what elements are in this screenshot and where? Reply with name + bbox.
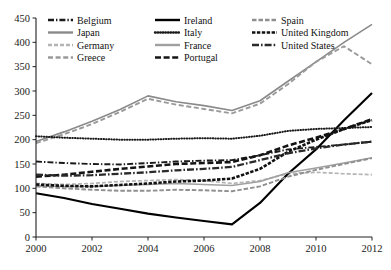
legend-item-ireland: Ireland — [155, 15, 212, 26]
legend-item-united-kingdom: United Kingdom — [252, 27, 349, 38]
x-tick-label: 2000 — [26, 243, 47, 254]
y-tick-label: 0 — [25, 232, 30, 243]
series-line-united-kingdom — [36, 120, 372, 186]
y-tick-label: 150 — [14, 159, 30, 170]
y-tick-label: 250 — [14, 110, 30, 121]
x-tick-label: 2012 — [362, 243, 383, 254]
legend-item-italy: Italy — [155, 27, 202, 38]
legend-item-portugal: Portugal — [155, 52, 218, 63]
x-tick-label: 2002 — [82, 243, 103, 254]
y-tick-label: 400 — [14, 37, 30, 48]
x-tick-label: 2008 — [250, 243, 271, 254]
legend-label: France — [184, 40, 212, 51]
chart-container: 0501001502002503003504004502000200220042… — [0, 0, 391, 270]
legend: BelgiumJapanGermanyGreeceIrelandItalyFra… — [48, 15, 349, 64]
line-chart: 0501001502002503003504004502000200220042… — [0, 0, 391, 270]
legend-item-spain: Spain — [252, 15, 304, 26]
legend-label: Greece — [77, 52, 106, 63]
y-tick-label: 200 — [14, 134, 30, 145]
legend-label: Germany — [77, 40, 114, 51]
legend-label: United States — [281, 40, 335, 51]
y-tick-label: 300 — [14, 86, 30, 97]
series-line-ireland — [36, 93, 372, 224]
y-tick-label: 50 — [20, 207, 31, 218]
series-line-germany — [36, 172, 372, 184]
legend-item-france: France — [155, 40, 212, 51]
legend-item-greece: Greece — [48, 52, 106, 63]
y-tick-label: 350 — [14, 61, 30, 72]
legend-item-germany: Germany — [48, 40, 114, 51]
legend-item-united-states: United States — [252, 40, 335, 51]
legend-label: Spain — [281, 15, 304, 26]
legend-label: Belgium — [77, 15, 112, 26]
legend-item-japan: Japan — [48, 27, 100, 38]
legend-label: Portugal — [184, 52, 218, 63]
x-tick-label: 2010 — [306, 243, 327, 254]
axis-lines — [36, 18, 372, 237]
x-tick-label: 2006 — [194, 243, 215, 254]
legend-label: Ireland — [184, 15, 212, 26]
x-tick-label: 2004 — [138, 243, 160, 254]
y-tick-label: 450 — [14, 13, 30, 24]
legend-label: Japan — [77, 27, 100, 38]
legend-label: United Kingdom — [281, 27, 349, 38]
legend-item-belgium: Belgium — [48, 15, 112, 26]
legend-label: Italy — [184, 27, 202, 38]
y-tick-label: 100 — [14, 183, 30, 194]
